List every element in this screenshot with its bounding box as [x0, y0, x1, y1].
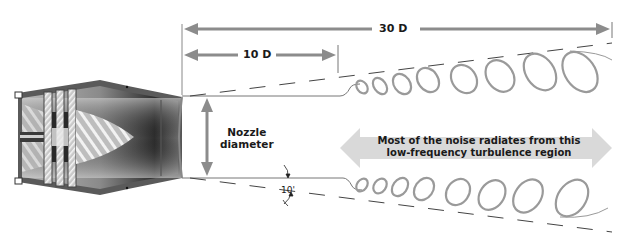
noise-label-line1: Most of the noise radiates from this [360, 135, 598, 147]
noise-region-label: Most of the noise radiates from this low… [360, 135, 598, 159]
nozzle-diameter-arrow [201, 98, 213, 176]
plume-top-boundary [182, 84, 360, 96]
turbine-stages [44, 89, 76, 187]
dimension-label-10d: 10 D [240, 48, 274, 61]
jet-engine [15, 80, 182, 195]
vortex-rings-top [354, 45, 612, 98]
nozzle-diameter-label: Nozzle diameter [220, 126, 274, 150]
jet-noise-diagram [0, 0, 630, 239]
spread-cone-bottom [190, 178, 612, 232]
nozzle-label-line2: diameter [220, 138, 274, 150]
plume-bottom-boundary [182, 178, 362, 190]
vortex-rings-bottom [354, 174, 608, 223]
intake-lip-bottom [15, 178, 22, 184]
nozzle-label-line1: Nozzle [220, 126, 274, 138]
noise-label-line2: low-frequency turbulence region [360, 147, 598, 159]
intake-lip-top [15, 92, 22, 98]
spread-angle-label: 10' [281, 185, 295, 195]
dimension-label-30d: 30 D [376, 22, 410, 35]
